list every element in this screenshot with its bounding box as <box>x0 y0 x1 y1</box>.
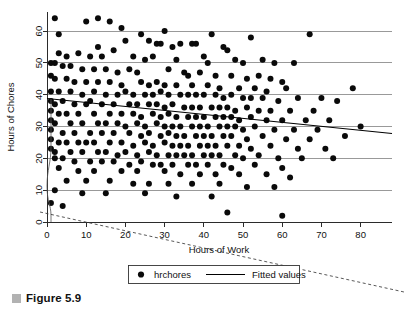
data-point <box>68 120 74 126</box>
data-point <box>232 57 238 63</box>
data-point <box>205 82 211 88</box>
data-point <box>162 168 168 174</box>
data-point <box>224 104 230 110</box>
data-point <box>87 130 93 136</box>
figure-container: 010203040506001020304050607080 Hours of … <box>0 0 404 311</box>
data-point <box>60 63 66 69</box>
data-point <box>107 19 113 25</box>
data-point <box>248 146 254 152</box>
data-point <box>185 114 191 120</box>
data-point <box>134 152 140 158</box>
data-point <box>181 152 187 158</box>
x-tick-label: 60 <box>277 229 288 240</box>
data-point <box>326 117 332 123</box>
data-point <box>334 98 340 104</box>
data-point <box>205 143 211 149</box>
data-point <box>173 133 179 139</box>
data-point <box>158 41 164 47</box>
data-point <box>71 159 77 165</box>
data-point <box>267 108 273 114</box>
data-point <box>126 130 132 136</box>
data-point <box>224 143 230 149</box>
data-point <box>256 73 262 79</box>
x-tick-label: 40 <box>199 229 210 240</box>
data-point <box>220 95 226 101</box>
data-point <box>169 101 175 107</box>
caption-marker-square <box>12 294 21 303</box>
data-point <box>240 155 246 161</box>
data-point <box>264 171 270 177</box>
data-point <box>330 155 336 161</box>
data-point <box>181 133 187 139</box>
data-point <box>158 89 164 95</box>
data-point <box>193 41 199 47</box>
data-point <box>275 155 281 161</box>
data-point <box>185 92 191 98</box>
data-point <box>220 133 226 139</box>
data-point <box>220 162 226 168</box>
data-point <box>279 213 285 219</box>
data-point <box>236 143 242 149</box>
data-point <box>64 111 70 117</box>
data-point <box>224 47 230 53</box>
data-point <box>150 143 156 149</box>
legend[interactable]: hrchores Fitted values <box>129 266 307 284</box>
data-point <box>185 162 191 168</box>
data-point <box>83 79 89 85</box>
data-point <box>158 133 164 139</box>
data-point <box>217 104 223 110</box>
data-point <box>60 98 66 104</box>
data-point <box>185 143 191 149</box>
data-point <box>193 92 199 98</box>
data-point <box>256 152 262 158</box>
data-point <box>60 130 66 136</box>
caption-text: Figure 5.9 <box>26 292 81 304</box>
y-tick-label: 60 <box>33 26 44 37</box>
data-point <box>107 178 113 184</box>
data-point <box>52 76 58 82</box>
data-point <box>103 92 109 98</box>
legend-label-fitted-values: Fitted values <box>252 269 306 280</box>
y-tick-label: 40 <box>33 89 44 100</box>
data-point <box>311 108 317 114</box>
data-point <box>260 95 266 101</box>
data-point <box>267 143 273 149</box>
data-point <box>138 79 144 85</box>
data-point <box>252 162 258 168</box>
data-point <box>71 130 77 136</box>
data-point <box>122 38 128 44</box>
data-point <box>248 34 254 40</box>
data-point <box>271 184 277 190</box>
data-point <box>150 92 156 98</box>
data-point <box>291 60 297 66</box>
data-point <box>79 120 85 126</box>
data-point <box>162 82 168 88</box>
data-point <box>91 111 97 117</box>
data-point <box>146 130 152 136</box>
data-point <box>138 159 144 165</box>
data-point <box>162 139 168 145</box>
data-point <box>56 165 62 171</box>
data-point <box>142 124 148 130</box>
data-point <box>236 85 242 91</box>
data-point <box>107 79 113 85</box>
y-tick-label: 50 <box>33 58 44 69</box>
data-point <box>52 60 58 66</box>
data-point <box>91 168 97 174</box>
data-point <box>287 108 293 114</box>
data-point <box>189 82 195 88</box>
data-point <box>56 31 62 37</box>
data-point <box>283 85 289 91</box>
x-tick-label: 0 <box>44 229 49 240</box>
data-point <box>307 136 313 142</box>
data-point <box>107 111 113 117</box>
data-point <box>177 171 183 177</box>
data-point <box>232 152 238 158</box>
data-point <box>122 124 128 130</box>
data-point <box>146 149 152 155</box>
data-point <box>185 73 191 79</box>
data-point <box>299 155 305 161</box>
data-point <box>166 152 172 158</box>
data-point <box>56 139 62 145</box>
data-point <box>173 114 179 120</box>
